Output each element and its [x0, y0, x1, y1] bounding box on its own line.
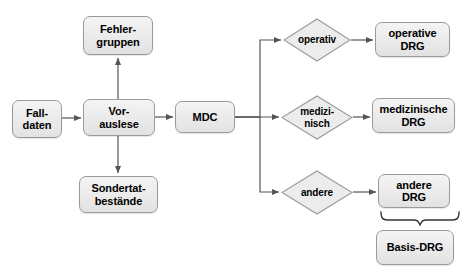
node-vorauslese[interactable]: Vor-auslese [83, 99, 155, 136]
node-sondertatbestaende[interactable]: Sondertat-bestände [79, 176, 158, 213]
edge-mdc-operativ [235, 40, 281, 117]
node-falldaten[interactable]: Fall-daten [12, 100, 62, 138]
node-andere[interactable]: andere [281, 170, 353, 215]
brace-andere-drg-basis-drg [381, 212, 459, 225]
node-operativ[interactable]: operativ [283, 18, 351, 62]
node-medizinisch[interactable]: medizi-nisch [281, 95, 353, 140]
edge-mdc-andere [235, 117, 279, 192]
node-mdc[interactable]: MDC [175, 101, 235, 133]
node-andere-drg-label: andereDRG [393, 179, 434, 204]
node-fehlergruppen[interactable]: Fehler-gruppen [83, 16, 153, 55]
node-andere-label: andere [301, 187, 333, 198]
node-fehlergruppen-label: Fehler-gruppen [93, 23, 142, 48]
node-medizinische-drg-label: medizinischeDRG [377, 103, 451, 128]
node-andere-drg[interactable]: andereDRG [378, 174, 450, 208]
node-operativ-label: operativ [298, 34, 336, 45]
node-operative-drg[interactable]: operativeDRG [375, 22, 450, 57]
flowchart-canvas: Fall-daten Vor-auslese Fehler-gruppen So… [0, 0, 466, 280]
node-medizinisch-label: medizi-nisch [300, 106, 334, 128]
node-sondertatbestaende-label: Sondertat-bestände [88, 182, 148, 207]
node-vorauslese-label: Vor-auslese [96, 105, 142, 130]
node-basis-drg-label: Basis-DRG [384, 241, 447, 253]
node-mdc-label: MDC [190, 111, 221, 123]
node-basis-drg[interactable]: Basis-DRG [376, 230, 454, 265]
node-falldaten-label: Fall-daten [20, 107, 55, 132]
node-medizinische-drg[interactable]: medizinischeDRG [372, 98, 455, 133]
node-operative-drg-label: operativeDRG [385, 27, 439, 52]
